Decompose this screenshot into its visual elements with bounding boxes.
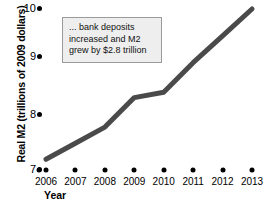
callout-line-2: increased and M2	[69, 34, 156, 46]
callout-line-1: ... bank deposits	[69, 22, 156, 34]
chart-container: Real M2 (trillions of 2009 dollars) 10 9…	[0, 0, 270, 208]
bank-deposits-callout: ... bank deposits increased and M2 grew …	[62, 17, 162, 63]
callout-line-3: grew by $2.8 trillion	[69, 45, 156, 57]
x-axis-title: Year	[44, 189, 66, 201]
